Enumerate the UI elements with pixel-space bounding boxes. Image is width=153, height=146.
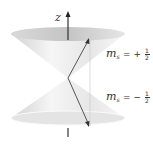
z-axis-arrowhead-icon [66, 11, 71, 17]
sign: = + [123, 49, 141, 59]
subscript: s [116, 53, 119, 60]
fraction: 12 [145, 91, 150, 104]
fraction: 12 [145, 48, 150, 61]
spin-down-label: ms = − 12 [106, 90, 150, 104]
m-symbol: m [106, 47, 116, 60]
subscript: s [116, 96, 119, 103]
denominator: 2 [145, 55, 149, 61]
spin-cones-diagram [0, 0, 153, 146]
z-axis-label: z [55, 11, 61, 24]
denominator: 2 [145, 98, 149, 104]
spin-up-label: ms = + 12 [106, 47, 150, 61]
m-symbol: m [106, 90, 116, 103]
sign: = − [123, 92, 141, 102]
